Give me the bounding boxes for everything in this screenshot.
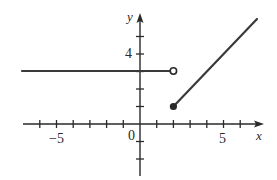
x-axis-label: x (255, 128, 262, 143)
series-piece-2 (170, 19, 257, 110)
closed-endpoint-icon (170, 103, 177, 110)
x-tick-label-neg5: −5 (49, 131, 64, 146)
origin-label: 0 (128, 128, 135, 143)
open-endpoint-icon (170, 68, 176, 74)
x-tick-label-5: 5 (219, 131, 226, 146)
y-axis-label: y (125, 9, 133, 24)
piecewise-function-graph: x −5 5 0 y 4 (0, 0, 277, 180)
series-piece-1 (22, 68, 177, 74)
y-axis: y 4 (125, 9, 144, 176)
y-tick-label-4: 4 (125, 46, 132, 61)
linear-segment (173, 19, 257, 107)
